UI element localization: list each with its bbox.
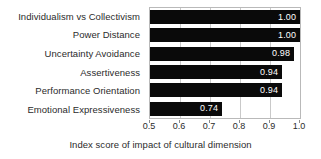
bar-row: 0.94 [150, 81, 300, 99]
x-tick-label: 0.7 [203, 122, 216, 131]
category-label: Performance Orientation [35, 86, 140, 96]
x-tick-label: 0.6 [173, 122, 186, 131]
x-tick-label: 0.8 [233, 122, 246, 131]
category-label-row: Performance Orientation [0, 82, 145, 101]
x-axis-title: Index score of impact of cultural dimens… [0, 139, 321, 150]
bar-row: 1.00 [150, 8, 300, 26]
bar-value-label: 0.94 [260, 68, 278, 77]
bar-row: 0.94 [150, 63, 300, 81]
bar-row: 1.00 [150, 26, 300, 44]
bar-value-label: 1.00 [278, 13, 296, 22]
category-label-row: Uncertainty Avoidance [0, 44, 145, 63]
bar: 1.00 [150, 10, 300, 24]
x-axis-ticks: 0.50.60.70.80.91.0 [149, 120, 301, 132]
bar-value-label: 0.98 [272, 49, 290, 58]
bar-row: 0.74 [150, 100, 300, 118]
bar: 0.94 [150, 65, 282, 79]
x-tick-label: 0.5 [143, 122, 156, 131]
bar-row: 0.98 [150, 45, 300, 63]
category-label-row: Individualism vs Collectivism [0, 7, 145, 26]
category-label-row: Assertiveness [0, 63, 145, 82]
plot-area: 1.00 1.00 0.98 0.94 0.94 [149, 7, 301, 119]
category-label: Assertiveness [80, 68, 140, 78]
category-axis-labels: Individualism vs Collectivism Power Dist… [0, 7, 145, 119]
category-label: Uncertainty Avoidance [45, 49, 140, 59]
category-label-row: Emotional Expressiveness [0, 100, 145, 119]
bar: 0.98 [150, 47, 294, 61]
bar: 1.00 [150, 28, 300, 42]
bar-chart: Individualism vs Collectivism Power Dist… [0, 0, 321, 159]
bar: 0.74 [150, 102, 222, 116]
bar-value-label: 0.94 [260, 86, 278, 95]
category-label: Emotional Expressiveness [27, 105, 140, 115]
category-label: Power Distance [73, 30, 140, 40]
bar: 0.94 [150, 83, 282, 97]
category-label-row: Power Distance [0, 26, 145, 45]
x-tick-label: 1.0 [293, 122, 306, 131]
category-label: Individualism vs Collectivism [18, 12, 140, 22]
bar-value-label: 1.00 [278, 31, 296, 40]
x-tick-label: 0.9 [263, 122, 276, 131]
bar-value-label: 0.74 [200, 104, 218, 113]
bars-layer: 1.00 1.00 0.98 0.94 0.94 [150, 8, 300, 118]
